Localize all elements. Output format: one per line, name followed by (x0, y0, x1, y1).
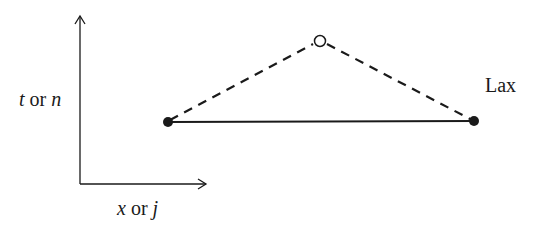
horizontal-axis-connector: or (126, 197, 153, 219)
open-node-top (315, 36, 326, 47)
vertical-axis-index: n (51, 88, 61, 110)
stencil-nodes (163, 36, 479, 128)
scheme-label: Lax (485, 74, 516, 96)
dashed-edge-left-top (170, 44, 313, 120)
horizontal-axis-var: x (116, 197, 126, 219)
solid-edge-left-right (168, 121, 474, 122)
axes (80, 16, 206, 184)
filled-node-left (163, 117, 173, 127)
vertical-axis-label: t or n (19, 88, 61, 110)
vertical-axis-connector: or (25, 88, 52, 110)
stencil-edges (168, 44, 474, 122)
lax-stencil-diagram: t or n x or j Lax (0, 0, 544, 234)
horizontal-axis-label: x or j (116, 197, 159, 220)
filled-node-right (469, 116, 479, 126)
dashed-edge-top-right (327, 44, 470, 119)
